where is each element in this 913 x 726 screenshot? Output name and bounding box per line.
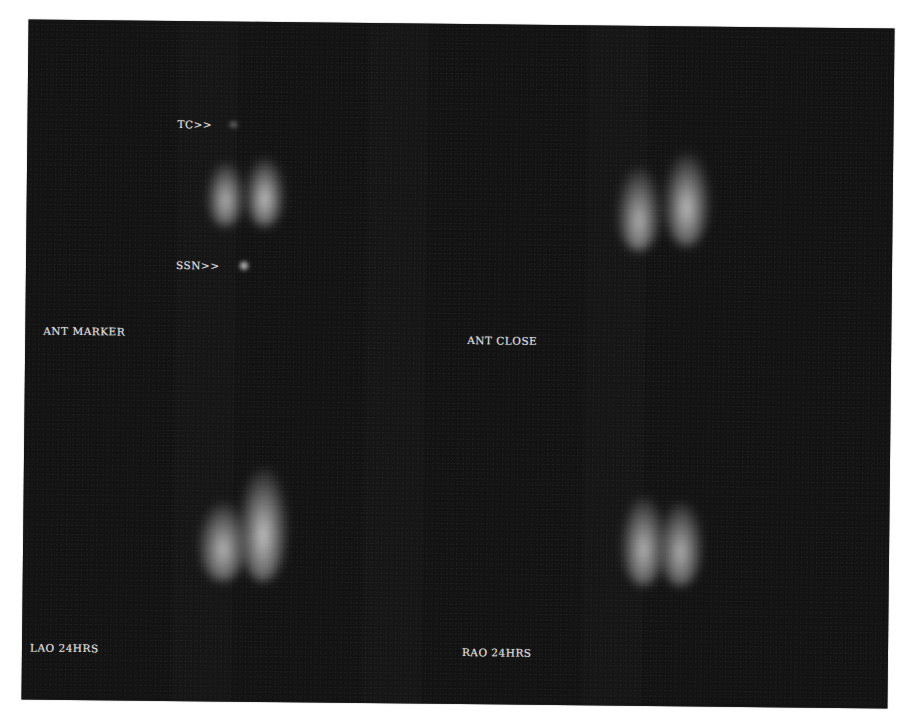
panel-label: ANT MARKER — [43, 325, 125, 338]
tc-marker-dot — [229, 122, 237, 128]
image-band — [361, 23, 428, 704]
tc-marker-label: TC>> — [177, 118, 212, 130]
panel-label: RAO 24HRS — [462, 646, 532, 659]
scan-image-frame: TC>> SSN>> ANT MARKER ANT CLOSE LAO 24HR… — [21, 19, 894, 708]
ssn-marker-dot — [240, 262, 248, 270]
image-band — [581, 25, 648, 706]
ssn-marker-label: SSN>> — [176, 259, 220, 271]
image-noise — [21, 19, 894, 708]
panel-label: ANT CLOSE — [467, 334, 537, 347]
panel-label: LAO 24HRS — [30, 642, 99, 655]
